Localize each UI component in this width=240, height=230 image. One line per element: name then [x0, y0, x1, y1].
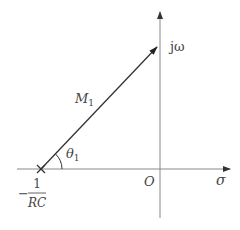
pole-label-denominator: RC — [27, 196, 46, 210]
vector-m1 — [41, 47, 157, 169]
sigma-axis-label: σ — [216, 172, 226, 188]
jw-axis-label: jω — [168, 39, 185, 54]
origin-label: O — [144, 174, 155, 189]
pole-label-numerator: 1 — [33, 177, 41, 191]
angle-arc — [56, 154, 63, 169]
s-plane-diagram: jω σ O M1 θ1 − 1 RC — [0, 0, 240, 230]
angle-label: θ1 — [66, 146, 80, 163]
vector-label: M1 — [74, 91, 94, 108]
